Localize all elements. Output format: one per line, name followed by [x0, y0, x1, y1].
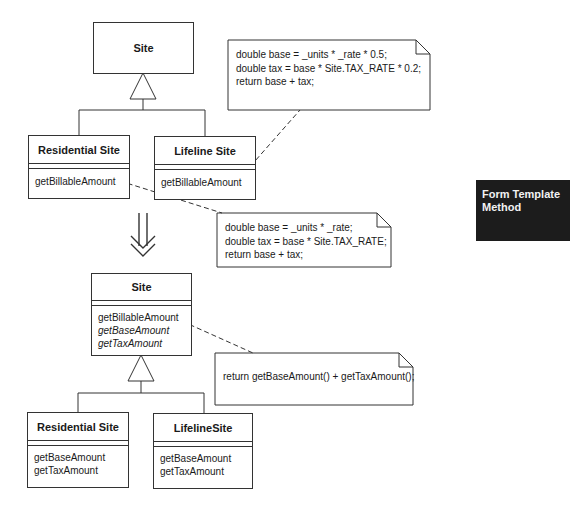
- double-down-arrow-icon: [131, 213, 155, 256]
- note-lifeline-code: double base = _units * _rate * 0.5; doub…: [228, 42, 428, 108]
- class-name: Residential Site: [28, 413, 128, 441]
- operation-getBillableAmount: getBillableAmount: [35, 175, 123, 188]
- class-lifeline-site-after[interactable]: LifelineSite getBaseAmount getTaxAmount: [153, 413, 253, 489]
- operation-getBillableAmount: getBillableAmount: [161, 176, 249, 189]
- operation-getBaseAmount: getBaseAmount: [160, 452, 246, 465]
- code-line: double tax = base * Site.TAX_RATE;: [225, 235, 381, 249]
- code-line: double base = _units * _rate;: [225, 221, 381, 235]
- class-name: Residential Site: [29, 136, 129, 164]
- code-line: return getBaseAmount() + getTaxAmount();: [223, 370, 403, 384]
- generalization-triangle-top: [130, 73, 156, 99]
- operations-compartment: getBillableAmount: [155, 170, 255, 192]
- operations-compartment: getBaseAmount getTaxAmount: [154, 447, 252, 481]
- class-lifeline-site-before[interactable]: Lifeline Site getBillableAmount: [154, 136, 256, 200]
- class-residential-site-before[interactable]: Residential Site getBillableAmount: [28, 135, 130, 199]
- class-residential-site-after[interactable]: Residential Site getBaseAmount getTaxAmo…: [27, 412, 129, 488]
- refactoring-title-tag: Form Template Method: [476, 180, 570, 241]
- code-line: double base = _units * _rate * 0.5;: [236, 48, 420, 62]
- operations-compartment: getBaseAmount getTaxAmount: [28, 446, 128, 480]
- note-template-method-code: return getBaseAmount() + getTaxAmount();: [215, 355, 411, 403]
- generalization-triangle-bottom: [128, 355, 154, 381]
- operations-compartment: getBillableAmount: [29, 169, 129, 191]
- operation-getTaxAmount: getTaxAmount: [34, 464, 122, 477]
- class-name: Lifeline Site: [155, 137, 255, 165]
- operation-getBaseAmount: getBaseAmount: [34, 451, 122, 464]
- operation-getTaxAmount: getTaxAmount: [160, 465, 246, 478]
- class-name: LifelineSite: [154, 414, 252, 442]
- class-site-after[interactable]: Site getBillableAmount getBaseAmount get…: [91, 273, 192, 356]
- operations-compartment: getBillableAmount getBaseAmount getTaxAm…: [92, 306, 191, 353]
- operation-getBillableAmount: getBillableAmount: [98, 311, 185, 324]
- tag-title-line2: Method: [482, 201, 564, 214]
- code-line: double tax = base * Site.TAX_RATE * 0.2;: [236, 62, 420, 76]
- operation-getTaxAmount-abstract: getTaxAmount: [98, 337, 185, 350]
- class-site-before[interactable]: Site: [93, 22, 194, 74]
- tag-title-line1: Form Template: [482, 188, 564, 201]
- class-name: Site: [94, 23, 193, 73]
- note-residential-code: double base = _units * _rate; double tax…: [217, 215, 389, 265]
- code-line: return base + tax;: [236, 75, 420, 89]
- class-name: Site: [92, 274, 191, 301]
- code-line: return base + tax;: [225, 248, 381, 262]
- operation-getBaseAmount-abstract: getBaseAmount: [98, 324, 185, 337]
